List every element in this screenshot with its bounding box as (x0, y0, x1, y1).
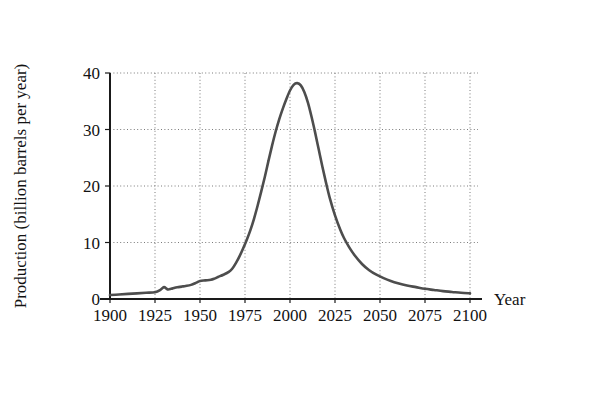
y-tick-label-0: 0 (92, 290, 101, 309)
x-tick-label-2100: 2100 (453, 306, 487, 325)
x-tick-label-2025: 2025 (318, 306, 352, 325)
production-line-chart: 190019251950197520002025205020752100 010… (0, 0, 615, 393)
x-tick-label-2075: 2075 (408, 306, 442, 325)
y-axis-title: Production (billion barrels per year) (11, 64, 30, 309)
x-tick-label-1950: 1950 (183, 306, 217, 325)
x-axis-title: Year (494, 290, 526, 309)
x-tick-label-2050: 2050 (363, 306, 397, 325)
y-tick-label-40: 40 (83, 64, 100, 83)
y-tick-label-30: 30 (83, 121, 100, 140)
x-tick-label-1975: 1975 (228, 306, 262, 325)
y-tick-label-10: 10 (83, 234, 100, 253)
x-tick-label-2000: 2000 (273, 306, 307, 325)
y-tick-label-20: 20 (83, 177, 100, 196)
chart-background (0, 0, 615, 393)
x-tick-label-1925: 1925 (138, 306, 172, 325)
figure-root: 190019251950197520002025205020752100 010… (0, 0, 615, 393)
x-tick-labels: 190019251950197520002025205020752100 (93, 306, 487, 325)
